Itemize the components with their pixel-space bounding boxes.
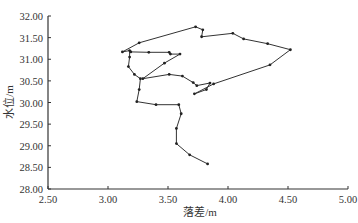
data-line (122, 27, 290, 164)
y-tick-label: 28.50 (19, 162, 43, 173)
axes (48, 16, 348, 189)
y-tick-label: 29.50 (19, 119, 43, 130)
data-markers (121, 25, 292, 165)
x-tick-label: 3.50 (159, 194, 177, 205)
x-tick-label: 5.00 (339, 194, 357, 205)
y-tick-label: 30.50 (19, 76, 43, 87)
chart: 2.503.003.504.004.505.0028.0028.5029.002… (0, 0, 358, 223)
y-tick-label: 29.00 (19, 141, 43, 152)
x-axis-label: 落差/m (183, 205, 217, 218)
y-tick-label: 31.00 (19, 54, 43, 65)
y-tick-label: 32.00 (19, 11, 43, 22)
x-tick-label: 4.50 (279, 194, 297, 205)
x-tick-label: 4.00 (219, 194, 237, 205)
x-tick-label: 3.00 (99, 194, 117, 205)
y-tick-label: 28.00 (19, 184, 43, 195)
tick-labels: 2.503.003.504.004.505.0028.0028.5029.002… (19, 11, 357, 205)
y-tick-label: 31.50 (19, 33, 43, 44)
x-tick-label: 2.50 (39, 194, 57, 205)
y-tick-label: 30.00 (19, 98, 43, 109)
y-axis-label: 水位/m (2, 85, 15, 119)
